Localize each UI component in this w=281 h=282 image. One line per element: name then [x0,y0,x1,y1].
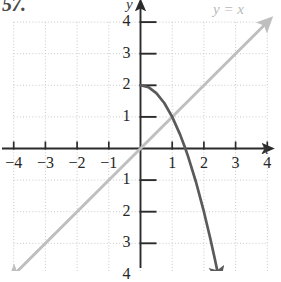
x-tick-label: −3 [31,155,59,171]
x-tick-label: 1 [158,155,186,171]
y-tick-label: 4 [107,266,131,282]
y-axis-label: y [126,0,133,13]
x-tick-label: 3 [222,155,250,171]
y-tick-label: 3 [107,234,131,250]
y-tick-label: 1 [107,108,131,124]
y-tick-label: 4 [107,13,131,29]
x-tick-label: 4 [253,155,281,171]
y-tick-label: 3 [107,45,131,61]
series-label-y-equals-x: y = x [213,1,244,18]
axis-lines [2,5,268,268]
x-tick-label: −4 [0,155,28,171]
x-tick-label: −1 [95,155,123,171]
y-tick-label: 1 [107,171,131,187]
y-tick-label: 2 [107,203,131,219]
exercise-number: 57. [2,0,26,16]
x-tick-label: −2 [63,155,91,171]
y-tick-label: 2 [107,76,131,92]
x-tick-label: 2 [190,155,218,171]
